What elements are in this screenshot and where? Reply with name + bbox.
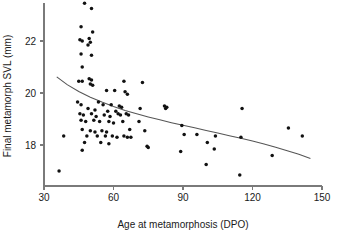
data-point [147, 146, 151, 150]
data-point [238, 173, 242, 177]
data-points-group [57, 2, 304, 177]
data-point [80, 148, 84, 152]
data-point [79, 52, 83, 56]
data-point [94, 115, 98, 119]
data-point [127, 113, 131, 117]
y-tick-label: 20 [25, 88, 37, 99]
x-tick-label: 150 [314, 192, 331, 203]
y-ticks-group: 182022 [25, 36, 44, 151]
data-point [57, 169, 61, 173]
data-point [122, 134, 126, 138]
data-point [108, 115, 112, 119]
data-point [76, 100, 80, 104]
data-point [90, 7, 94, 11]
data-point [93, 130, 97, 134]
data-point [240, 107, 244, 111]
data-point [83, 141, 87, 145]
data-point [239, 135, 243, 139]
data-point [77, 80, 81, 84]
data-point [143, 129, 147, 133]
data-point [80, 39, 84, 43]
data-point [84, 120, 88, 124]
data-point [62, 134, 66, 138]
data-point [87, 37, 91, 41]
data-point [120, 106, 124, 110]
x-tick-label: 90 [177, 192, 189, 203]
data-point [206, 141, 210, 145]
data-point [93, 108, 97, 112]
data-point [90, 78, 94, 82]
chart-canvas: 182022 306090120150 Age at metamorphosis… [0, 0, 343, 234]
data-point [107, 120, 111, 124]
data-point [105, 89, 109, 93]
data-point [89, 41, 93, 45]
data-point [129, 135, 133, 139]
data-point [112, 121, 116, 125]
data-point [301, 134, 305, 138]
data-point [98, 120, 102, 124]
data-point [122, 80, 126, 84]
data-point [126, 135, 129, 139]
data-point [106, 109, 110, 113]
x-tick-label: 30 [38, 192, 50, 203]
data-point [115, 135, 119, 139]
data-point [137, 120, 141, 124]
data-point [105, 130, 109, 134]
x-tick-label: 120 [244, 192, 261, 203]
y-tick-label: 22 [25, 36, 37, 47]
y-tick-label: 18 [25, 140, 37, 151]
data-point [100, 129, 104, 133]
data-point [80, 65, 84, 69]
data-point [114, 109, 118, 113]
data-point [86, 43, 90, 47]
data-point [79, 119, 83, 123]
data-point [86, 107, 90, 111]
data-point [126, 93, 129, 97]
data-point [213, 147, 217, 151]
data-point [82, 113, 86, 117]
data-point [195, 133, 199, 137]
data-point [96, 134, 100, 138]
data-point [92, 119, 96, 123]
data-point [109, 103, 113, 107]
data-point [102, 113, 106, 117]
fit-curve [57, 77, 311, 159]
data-point [91, 83, 95, 87]
data-point [90, 54, 94, 58]
data-point [214, 134, 218, 138]
data-point [83, 2, 87, 6]
data-point [85, 134, 89, 138]
data-point [123, 90, 127, 94]
data-point [204, 163, 208, 167]
data-point [89, 129, 93, 133]
x-tick-label: 60 [108, 192, 120, 203]
data-point [270, 154, 274, 158]
data-point [80, 128, 84, 132]
data-point [113, 89, 117, 93]
data-point [91, 30, 95, 34]
data-point [104, 134, 108, 138]
x-ticks-group: 306090120150 [38, 186, 330, 203]
data-point [78, 112, 82, 116]
data-point [79, 103, 83, 107]
x-axis-title: Age at metamorphosis (DPO) [117, 219, 248, 230]
data-point [99, 141, 103, 145]
data-point [180, 124, 184, 128]
data-point [101, 103, 105, 107]
data-point [165, 106, 169, 110]
data-point [107, 142, 111, 146]
y-axis-title: Final metamorph SVL (mm) [2, 35, 13, 157]
data-point [141, 81, 145, 85]
data-point [80, 80, 84, 84]
fit-curve-group [57, 77, 311, 159]
data-point [111, 134, 115, 138]
data-point [97, 100, 101, 104]
data-point [121, 120, 125, 124]
data-point [128, 128, 132, 132]
data-point [287, 126, 291, 130]
data-point [90, 112, 94, 116]
scatter-plot-figure: 182022 306090120150 Age at metamorphosis… [0, 0, 343, 234]
data-point [138, 107, 142, 111]
data-point [119, 113, 123, 117]
data-point [179, 150, 183, 154]
